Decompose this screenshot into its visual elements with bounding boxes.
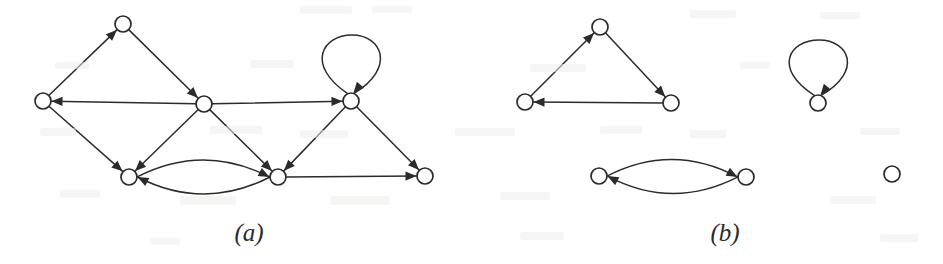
- graph-node: [196, 96, 212, 112]
- edge-a-mid-to-a-left: [52, 101, 197, 104]
- graph-node: [663, 95, 679, 111]
- edge-a-left-to-a-top: [49, 30, 117, 96]
- edge-b-left-to-b-top: [531, 33, 594, 96]
- graph-node: [121, 169, 137, 185]
- arrowhead-self-loop: [820, 84, 831, 95]
- graph-node: [738, 169, 754, 185]
- edge-self-loop: [322, 35, 380, 94]
- edge-b-bl-to-b-br: [607, 159, 738, 176]
- edge-a-bm-to-a-br: [286, 176, 417, 177]
- arrowhead-self-loop: [353, 82, 364, 93]
- graph-node: [35, 93, 51, 109]
- edge-b-br-to-b-bl: [608, 176, 739, 193]
- edge-a-mid-to-a-bm: [210, 110, 272, 171]
- graph-node: [343, 93, 359, 109]
- arrowhead-a-mid-to-a-right: [331, 97, 342, 106]
- arrowhead-a-bm-to-a-br: [405, 172, 416, 181]
- graph-node: [270, 169, 286, 185]
- graph-canvas: [0, 0, 943, 264]
- panel-b-caption: (b): [710, 219, 739, 247]
- graph-node: [115, 16, 131, 32]
- graph-node: [417, 168, 433, 184]
- edge-b-top-to-b-right: [605, 33, 665, 97]
- arrowhead-a-mid-to-a-left: [52, 97, 63, 106]
- edge-a-bm-to-a-bl: [138, 177, 271, 194]
- nodes-layer: [35, 16, 900, 185]
- edge-a-left-to-a-bl: [49, 106, 123, 171]
- graph-node: [884, 166, 900, 182]
- graph-node: [810, 95, 826, 111]
- graph-node: [591, 168, 607, 184]
- edge-a-right-to-a-bm: [284, 107, 346, 171]
- figure-root: (a) (b): [0, 0, 943, 264]
- edge-a-top-to-a-mid: [129, 30, 198, 98]
- edge-a-mid-to-a-right: [212, 101, 343, 104]
- panel-a-caption: (a): [234, 219, 263, 247]
- arrowhead-b-right-to-b-left: [534, 98, 545, 107]
- graph-node: [517, 94, 533, 110]
- edge-a-right-to-a-br: [357, 107, 419, 170]
- edge-a-bl-to-a-bm: [137, 160, 270, 177]
- edge-a-mid-to-a-bl: [135, 110, 198, 171]
- edge-self-loop: [789, 40, 847, 96]
- graph-node: [592, 19, 608, 35]
- edges-layer: [49, 30, 848, 194]
- edge-b-right-to-b-left: [534, 102, 664, 103]
